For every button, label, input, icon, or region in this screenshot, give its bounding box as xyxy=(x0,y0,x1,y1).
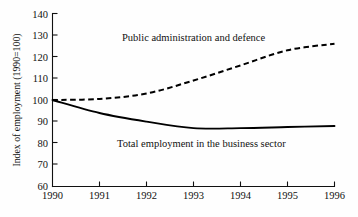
y-tick-label-140: 140 xyxy=(32,9,48,20)
series-label-business-sector: Total employment in the business sector xyxy=(117,138,286,149)
y-tick-label-130: 130 xyxy=(32,30,48,41)
y-tick-label-100: 100 xyxy=(32,95,48,106)
y-tick-label-120: 120 xyxy=(32,52,48,63)
x-tick-label-1991: 1991 xyxy=(89,190,110,201)
y-axis-label: Index of employment (1990=100) xyxy=(11,33,23,166)
series-label-public-administration: Public administration and defence xyxy=(122,32,266,43)
chart-figure: Index of employment (1990=100) 140 130 1… xyxy=(0,0,358,217)
x-tick-label-1996: 1996 xyxy=(324,190,345,201)
y-tick-label-110: 110 xyxy=(33,73,48,84)
x-tick-label-1994: 1994 xyxy=(230,190,252,201)
y-tick-label-90: 90 xyxy=(38,116,49,127)
x-tick-label-1993: 1993 xyxy=(183,190,204,201)
x-tick-label-1992: 1992 xyxy=(136,190,157,201)
employment-index-line-chart: Index of employment (1990=100) 140 130 1… xyxy=(0,0,358,217)
x-tick-label-1995: 1995 xyxy=(277,190,298,201)
y-tick-label-80: 80 xyxy=(38,138,49,149)
x-tick-label-1990: 1990 xyxy=(42,190,63,201)
y-tick-label-70: 70 xyxy=(38,159,49,170)
